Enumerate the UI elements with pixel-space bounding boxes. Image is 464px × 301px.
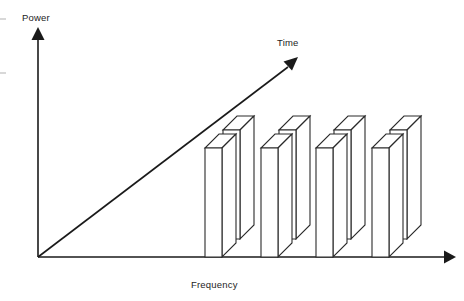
bar-group-2-front-bar <box>261 134 292 257</box>
power-axis-label: Power <box>22 12 50 23</box>
bar-front-face <box>205 148 222 257</box>
bar-side-face <box>407 116 421 239</box>
bar-group-2 <box>261 116 310 257</box>
bar-group-1 <box>205 116 254 257</box>
edge-tick-mid-icon <box>0 72 6 74</box>
bar-side-face <box>278 134 292 257</box>
edge-tick-top-icon <box>0 18 6 20</box>
bar-side-face <box>389 134 403 257</box>
bar-group-4-front-bar <box>372 134 403 257</box>
power-axis <box>32 27 45 257</box>
bar-front-face <box>261 148 278 257</box>
power-time-frequency-figure: Power Time Frequency <box>0 0 464 301</box>
time-axis <box>38 57 298 257</box>
page-edge-marks <box>0 18 6 74</box>
bar-front-face <box>316 148 333 257</box>
bar-group-1-front-bar <box>205 134 236 257</box>
bar-front-face <box>372 148 389 257</box>
diagram-canvas: Power Time Frequency <box>0 0 464 301</box>
bar-side-face <box>296 116 310 239</box>
bar-side-face <box>333 134 347 257</box>
bar-group-4 <box>372 116 421 257</box>
bar-side-face <box>351 116 365 239</box>
bar-side-face <box>240 116 254 239</box>
bar-group-3-front-bar <box>316 134 347 257</box>
bar-group-3 <box>316 116 365 257</box>
frequency-axis-label: Frequency <box>191 279 238 290</box>
power-axis-arrowhead-icon <box>32 27 45 40</box>
frequency-axis-arrowhead-icon <box>444 251 456 264</box>
time-axis-label: Time <box>277 37 299 48</box>
bar-side-face <box>222 134 236 257</box>
